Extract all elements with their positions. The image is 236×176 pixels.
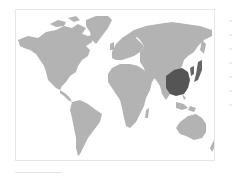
region-south-america[interactable]: [70, 100, 102, 156]
region-uk: [110, 42, 114, 50]
region-korea-highlighted[interactable]: [190, 66, 194, 76]
region-southeast-asia: [176, 94, 196, 112]
legend-tick: [229, 48, 232, 50]
side-legend-ticks: [229, 20, 235, 120]
legend-tick: [229, 62, 232, 64]
region-north-america[interactable]: [18, 24, 94, 90]
region-australia[interactable]: [176, 114, 206, 140]
legend-tick: [229, 34, 232, 36]
legend-tick: [229, 76, 232, 78]
bottom-divider: [15, 172, 62, 173]
world-map: [16, 10, 214, 160]
legend-tick: [229, 20, 232, 22]
map-widget: World map: [0, 0, 236, 176]
legend-tick: [229, 90, 232, 92]
legend-tick: [229, 104, 232, 106]
region-japan-highlighted[interactable]: [194, 60, 202, 82]
map-frame: World map: [15, 9, 215, 161]
region-madagascar: [145, 108, 149, 118]
region-new-zealand: [210, 140, 214, 152]
region-central-america: [60, 90, 72, 102]
region-arctic-islands: [50, 16, 80, 27]
